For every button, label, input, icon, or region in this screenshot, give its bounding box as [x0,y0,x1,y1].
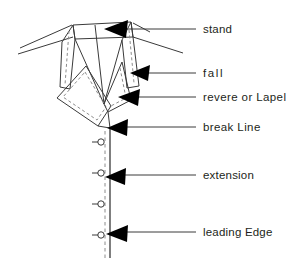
callout-revere-lapel: revere or Lapel [118,89,286,106]
lapel-left-rollline [63,72,106,120]
label-break-line: break Line [203,121,261,133]
label-leading-edge: leading Edge [203,226,273,238]
collar-diagram-svg: stand fall revere or Lapel break Line ex… [0,0,305,265]
callout-break-line: break Line [107,119,261,136]
label-revere-lapel: revere or Lapel [203,91,286,103]
button-2 [92,170,104,176]
arrowhead-fall-icon [130,65,150,81]
button-circle-2 [98,170,104,176]
button-3 [92,201,104,207]
callout-extension: extension [105,168,254,185]
label-stand: stand [203,23,232,35]
callout-fall: fall [130,65,224,81]
button-circle-3 [98,201,104,207]
neckline-line-right [133,23,150,32]
garment-drawing [18,22,183,258]
callout-leading-edge: leading Edge [106,225,273,242]
collar-diagram-canvas: stand fall revere or Lapel break Line ex… [0,0,305,265]
button-marks-group [92,139,104,238]
button-circle-1 [98,139,104,145]
collar-gorge-right [104,40,122,104]
button-circle-4 [98,232,104,238]
arrowhead-leading-edge-icon [106,225,128,242]
arrowhead-extension-icon [105,168,126,185]
label-extension: extension [203,169,254,181]
button-1 [92,139,104,145]
callout-stand: stand [104,20,232,38]
neckline-line-left [20,25,72,48]
label-fall: fall [203,67,224,79]
shoulder-line-right [133,37,183,53]
break-point-right [108,112,110,128]
collar-fall-left-outline [60,25,75,89]
button-4 [92,232,104,238]
